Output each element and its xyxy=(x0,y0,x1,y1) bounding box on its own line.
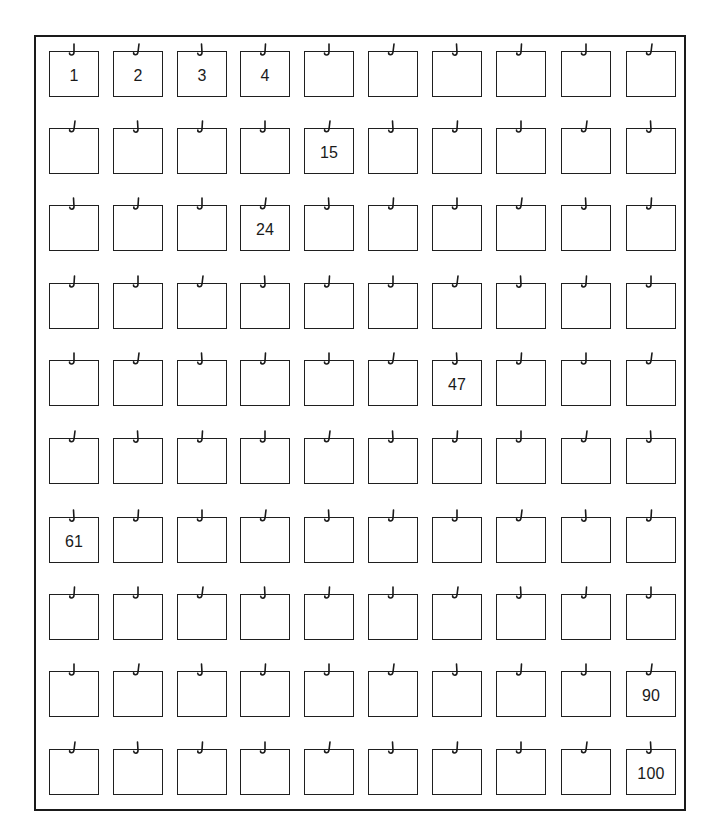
box-40 xyxy=(626,283,676,329)
box-73 xyxy=(177,594,227,640)
box-13 xyxy=(177,128,227,174)
box-87 xyxy=(432,671,482,717)
hook-icon xyxy=(516,586,526,600)
hook-icon xyxy=(452,741,462,755)
hook-icon xyxy=(516,430,526,444)
box-number-label: 2 xyxy=(133,67,142,85)
hook-icon xyxy=(260,275,270,289)
hook-icon xyxy=(324,509,334,523)
box-5 xyxy=(304,51,354,97)
hook-icon xyxy=(324,741,334,755)
hook-icon xyxy=(133,430,143,444)
hook-icon xyxy=(516,43,526,57)
box-51 xyxy=(49,438,99,484)
hook-icon xyxy=(581,741,591,755)
hook-icon xyxy=(69,197,79,211)
hook-icon xyxy=(581,663,591,677)
hook-icon xyxy=(646,663,656,677)
box-79 xyxy=(561,594,611,640)
hook-icon xyxy=(69,741,79,755)
box-49 xyxy=(561,360,611,406)
box-23 xyxy=(177,205,227,251)
hook-icon xyxy=(197,43,207,57)
box-number-label: 3 xyxy=(197,67,206,85)
box-4: 4 xyxy=(240,51,290,97)
hook-icon xyxy=(646,430,656,444)
hook-icon xyxy=(646,120,656,134)
hook-icon xyxy=(260,352,270,366)
hook-icon xyxy=(388,352,398,366)
box-1: 1 xyxy=(49,51,99,97)
box-6 xyxy=(368,51,418,97)
hook-icon xyxy=(581,430,591,444)
box-80 xyxy=(626,594,676,640)
box-75 xyxy=(304,594,354,640)
hook-icon xyxy=(133,509,143,523)
hook-icon xyxy=(197,275,207,289)
hook-icon xyxy=(388,741,398,755)
hook-icon xyxy=(646,586,656,600)
box-39 xyxy=(561,283,611,329)
box-65 xyxy=(304,517,354,563)
box-14 xyxy=(240,128,290,174)
hook-icon xyxy=(197,120,207,134)
hook-icon xyxy=(260,663,270,677)
box-81 xyxy=(49,671,99,717)
hook-icon xyxy=(324,43,334,57)
hook-icon xyxy=(260,120,270,134)
box-46 xyxy=(368,360,418,406)
box-38 xyxy=(496,283,546,329)
hook-icon xyxy=(516,663,526,677)
hook-icon xyxy=(324,275,334,289)
box-20 xyxy=(626,128,676,174)
box-70 xyxy=(626,517,676,563)
box-100: 100 xyxy=(626,749,676,795)
hook-icon xyxy=(197,741,207,755)
box-21 xyxy=(49,205,99,251)
box-16 xyxy=(368,128,418,174)
hook-icon xyxy=(260,197,270,211)
hook-icon xyxy=(516,120,526,134)
box-67 xyxy=(432,517,482,563)
box-93 xyxy=(177,749,227,795)
hook-icon xyxy=(516,741,526,755)
hook-icon xyxy=(133,586,143,600)
box-9 xyxy=(561,51,611,97)
box-74 xyxy=(240,594,290,640)
hook-icon xyxy=(388,509,398,523)
hook-icon xyxy=(388,586,398,600)
hook-icon xyxy=(516,352,526,366)
hook-icon xyxy=(452,43,462,57)
hook-icon xyxy=(260,43,270,57)
hook-icon xyxy=(516,275,526,289)
hook-icon xyxy=(69,586,79,600)
hook-icon xyxy=(452,430,462,444)
box-37 xyxy=(432,283,482,329)
hook-icon xyxy=(516,509,526,523)
hook-icon xyxy=(324,586,334,600)
box-45 xyxy=(304,360,354,406)
hook-icon xyxy=(581,586,591,600)
hook-icon xyxy=(452,509,462,523)
hook-icon xyxy=(197,352,207,366)
box-8 xyxy=(496,51,546,97)
box-94 xyxy=(240,749,290,795)
box-41 xyxy=(49,360,99,406)
hook-icon xyxy=(646,197,656,211)
box-34 xyxy=(240,283,290,329)
box-86 xyxy=(368,671,418,717)
box-78 xyxy=(496,594,546,640)
box-33 xyxy=(177,283,227,329)
box-18 xyxy=(496,128,546,174)
hook-icon xyxy=(133,275,143,289)
box-29 xyxy=(561,205,611,251)
box-28 xyxy=(496,205,546,251)
box-54 xyxy=(240,438,290,484)
hook-icon xyxy=(69,275,79,289)
box-47: 47 xyxy=(432,360,482,406)
box-12 xyxy=(113,128,163,174)
box-68 xyxy=(496,517,546,563)
box-11 xyxy=(49,128,99,174)
hook-icon xyxy=(133,197,143,211)
box-53 xyxy=(177,438,227,484)
